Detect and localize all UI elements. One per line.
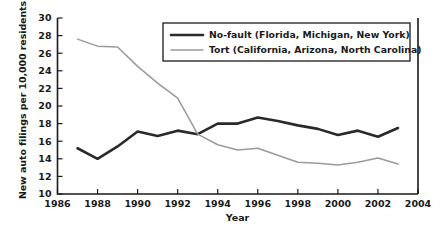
y-axis-ticks: 1012141618202224262830 bbox=[38, 12, 62, 199]
svg-text:28: 28 bbox=[38, 30, 52, 41]
svg-text:1996: 1996 bbox=[245, 198, 272, 209]
legend-label-1: No-fault (Florida, Michigan, New York) bbox=[209, 29, 410, 40]
svg-text:30: 30 bbox=[38, 12, 52, 23]
svg-text:18: 18 bbox=[38, 118, 52, 129]
svg-text:16: 16 bbox=[38, 136, 52, 147]
svg-text:24: 24 bbox=[38, 65, 52, 76]
series-line-1 bbox=[78, 117, 398, 158]
legend-label-2: Tort (California, Arizona, North Carolin… bbox=[209, 44, 421, 55]
svg-text:26: 26 bbox=[38, 48, 52, 59]
line-chart-plot: 1012141618202224262830 19861988199019921… bbox=[0, 0, 440, 234]
svg-text:2004: 2004 bbox=[405, 198, 432, 209]
svg-text:12: 12 bbox=[38, 171, 51, 182]
x-axis-ticks: 1986198819901992199419961998200020022004 bbox=[44, 189, 431, 209]
svg-text:1988: 1988 bbox=[84, 198, 111, 209]
svg-text:1998: 1998 bbox=[285, 198, 312, 209]
svg-text:1986: 1986 bbox=[44, 198, 71, 209]
chart-figure: New auto filings per 10,000 residents Ye… bbox=[0, 0, 440, 234]
chart-legend: No-fault (Florida, Michigan, New York)To… bbox=[163, 23, 421, 61]
svg-text:1994: 1994 bbox=[204, 198, 231, 209]
svg-text:1992: 1992 bbox=[164, 198, 190, 209]
svg-text:20: 20 bbox=[38, 100, 52, 111]
svg-text:14: 14 bbox=[38, 153, 52, 164]
svg-text:22: 22 bbox=[38, 83, 51, 94]
svg-text:2002: 2002 bbox=[365, 198, 391, 209]
svg-text:2000: 2000 bbox=[325, 198, 352, 209]
svg-text:1990: 1990 bbox=[124, 198, 151, 209]
